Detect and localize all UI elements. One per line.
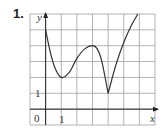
y-tick-label-1: 1 [35, 87, 41, 99]
origin-label: 0 [34, 112, 40, 124]
x-tick-label-1: 1 [59, 113, 65, 125]
grid [30, 14, 155, 125]
x-axis-label: x [149, 112, 155, 124]
y-axis-label: y [36, 11, 42, 23]
function-graph: y x 0 1 1 [0, 0, 165, 135]
